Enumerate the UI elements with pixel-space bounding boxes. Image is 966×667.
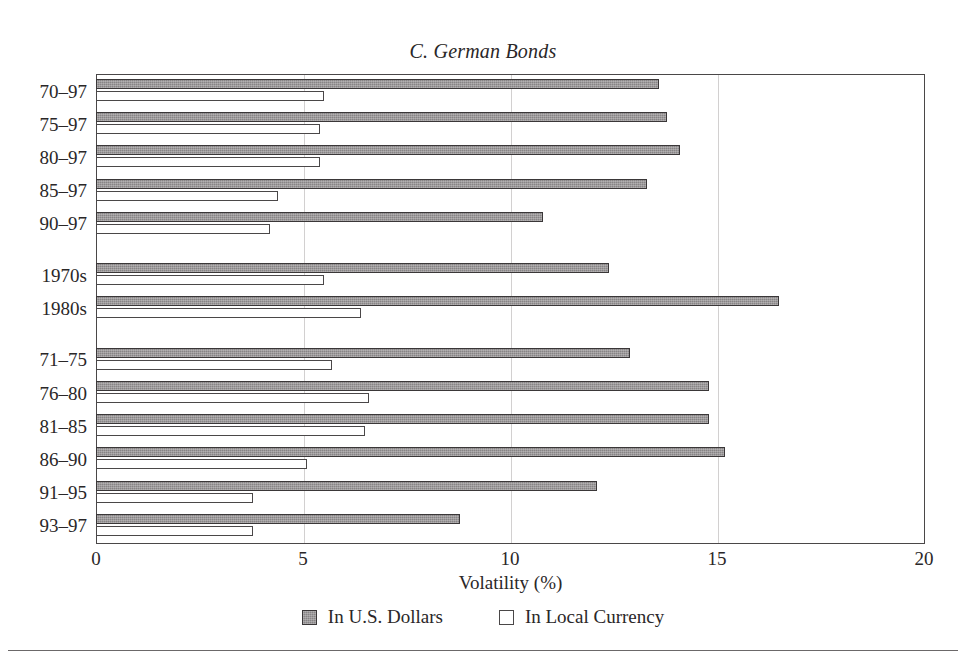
x-axis-ticks: 05101520 bbox=[96, 548, 925, 574]
x-tick-label: 15 bbox=[708, 548, 727, 570]
chart-title: C. German Bonds bbox=[0, 40, 966, 63]
bar-group-row: 71–75 bbox=[96, 344, 924, 377]
bar-usd bbox=[96, 179, 647, 189]
bar-group-row: 80–97 bbox=[96, 141, 924, 174]
bar-local-currency bbox=[96, 157, 320, 167]
bar-local-currency bbox=[96, 224, 270, 234]
bar-usd bbox=[96, 481, 597, 491]
y-axis-category-label: 70–97 bbox=[40, 82, 88, 101]
bar-usd bbox=[96, 145, 680, 155]
bar-group-row: 1970s bbox=[96, 259, 924, 292]
bar-usd bbox=[96, 212, 543, 222]
bar-group-row: 75–97 bbox=[96, 108, 924, 141]
bar-local-currency bbox=[96, 360, 332, 370]
bar-group-row: 76–80 bbox=[96, 377, 924, 410]
y-axis-category-label: 1970s bbox=[42, 266, 87, 285]
x-tick-label: 5 bbox=[298, 548, 308, 570]
x-tick-label: 0 bbox=[91, 548, 101, 570]
bar-group-row: 85–97 bbox=[96, 175, 924, 208]
y-axis-category-label: 86–90 bbox=[40, 450, 88, 469]
bar-usd bbox=[96, 79, 659, 89]
x-tick-label: 20 bbox=[915, 548, 934, 570]
x-tick-label: 10 bbox=[501, 548, 520, 570]
bar-group-row: 1980s bbox=[96, 292, 924, 325]
bar-local-currency bbox=[96, 275, 324, 285]
y-axis-category-label: 75–97 bbox=[40, 115, 88, 134]
chart-legend: In U.S. Dollars In Local Currency bbox=[0, 606, 966, 628]
bar-local-currency bbox=[96, 426, 365, 436]
bar-local-currency bbox=[96, 91, 324, 101]
bar-local-currency bbox=[96, 308, 361, 318]
y-axis-category-label: 80–97 bbox=[40, 148, 88, 167]
bar-group-row: 90–97 bbox=[96, 208, 924, 241]
y-axis-category-label: 91–95 bbox=[40, 483, 88, 502]
legend-label-local: In Local Currency bbox=[525, 606, 664, 628]
bar-local-currency bbox=[96, 493, 253, 503]
chart-figure: C. German Bonds 70–9775–9780–9785–9790–9… bbox=[0, 0, 966, 667]
bar-local-currency bbox=[96, 393, 369, 403]
bar-usd bbox=[96, 263, 609, 273]
bar-usd bbox=[96, 112, 667, 122]
legend-item-usd: In U.S. Dollars bbox=[302, 606, 443, 628]
y-axis-category-label: 76–80 bbox=[40, 384, 88, 403]
bar-group-row: 81–85 bbox=[96, 410, 924, 443]
y-axis-category-label: 90–97 bbox=[40, 214, 88, 233]
y-axis-category-label: 81–85 bbox=[40, 417, 88, 436]
bar-usd bbox=[96, 296, 779, 306]
bar-group-row: 91–95 bbox=[96, 477, 924, 510]
bottom-divider bbox=[8, 650, 958, 651]
bar-group-row: 70–97 bbox=[96, 75, 924, 108]
bar-local-currency bbox=[96, 459, 307, 469]
bar-local-currency bbox=[96, 124, 320, 134]
y-axis-category-label: 71–75 bbox=[40, 350, 88, 369]
bar-usd bbox=[96, 514, 460, 524]
bar-local-currency bbox=[96, 191, 278, 201]
y-axis-category-label: 85–97 bbox=[40, 181, 88, 200]
bar-usd bbox=[96, 447, 725, 457]
bar-group-row: 86–90 bbox=[96, 443, 924, 476]
y-axis-category-label: 93–97 bbox=[40, 516, 88, 535]
filled-gray-swatch-icon bbox=[302, 610, 317, 625]
y-axis-category-label: 1980s bbox=[42, 299, 87, 318]
legend-label-usd: In U.S. Dollars bbox=[328, 606, 443, 628]
bars-layer: 70–9775–9780–9785–9790–971970s1980s71–75… bbox=[96, 75, 924, 543]
bar-usd bbox=[96, 348, 630, 358]
x-axis-label: Volatility (%) bbox=[96, 572, 925, 594]
open-white-swatch-icon bbox=[499, 610, 514, 625]
legend-item-local: In Local Currency bbox=[499, 606, 664, 628]
bar-usd bbox=[96, 414, 709, 424]
bar-group-row: 93–97 bbox=[96, 510, 924, 543]
bar-local-currency bbox=[96, 526, 253, 536]
bar-usd bbox=[96, 381, 709, 391]
